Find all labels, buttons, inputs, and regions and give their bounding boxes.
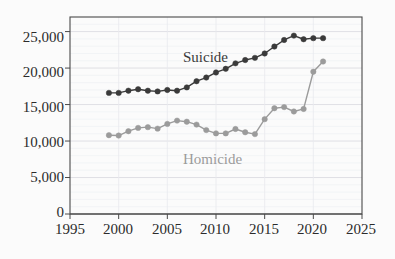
- y-tick-label-15000: 15,000: [23, 100, 64, 115]
- data-point: [126, 88, 131, 93]
- data-point: [184, 85, 189, 90]
- x-tick-label-2010: 2010: [193, 222, 237, 237]
- data-point: [155, 89, 160, 94]
- data-point: [145, 88, 150, 93]
- data-point: [262, 116, 267, 121]
- data-point: [262, 51, 267, 56]
- data-point: [320, 35, 325, 40]
- data-point: [106, 90, 111, 95]
- data-point: [135, 125, 140, 130]
- data-point: [243, 130, 248, 135]
- series-label-suicide: Suicide: [183, 50, 228, 65]
- data-point: [223, 131, 228, 136]
- x-tick-label-2015: 2015: [242, 222, 286, 237]
- data-point: [126, 128, 131, 133]
- y-tick-label-20000: 20,000: [23, 65, 64, 80]
- data-point: [311, 35, 316, 40]
- x-tick-label-1995: 1995: [48, 222, 92, 237]
- chart-container: 25,000 20,000 15,000 10,000 5,000 0 1995…: [0, 0, 395, 259]
- data-point: [184, 119, 189, 124]
- data-point: [135, 87, 140, 92]
- data-point: [281, 37, 286, 42]
- data-point: [252, 55, 257, 60]
- data-point: [174, 118, 179, 123]
- y-tick-label-0: 0: [57, 205, 65, 220]
- data-point: [281, 104, 286, 109]
- x-tick-label-2000: 2000: [96, 222, 140, 237]
- data-point: [301, 106, 306, 111]
- y-tick-label-5000: 5,000: [30, 170, 64, 185]
- x-tick-label-2005: 2005: [145, 222, 189, 237]
- data-point: [145, 124, 150, 129]
- x-tick-label-2020: 2020: [290, 222, 334, 237]
- data-point: [311, 69, 316, 74]
- data-point: [301, 37, 306, 42]
- data-point: [233, 126, 238, 131]
- y-tick-label-25000: 25,000: [23, 30, 64, 45]
- data-point: [213, 131, 218, 136]
- data-point: [194, 79, 199, 84]
- data-point: [223, 66, 228, 71]
- data-point: [291, 109, 296, 114]
- data-point: [272, 106, 277, 111]
- data-point: [165, 87, 170, 92]
- data-point: [106, 133, 111, 138]
- y-tick-label-10000: 10,000: [23, 135, 64, 150]
- data-point: [243, 57, 248, 62]
- x-tick-label-2025: 2025: [339, 222, 383, 237]
- data-point: [204, 127, 209, 132]
- data-point: [272, 44, 277, 49]
- data-point: [213, 70, 218, 75]
- data-point: [291, 33, 296, 38]
- data-point: [116, 133, 121, 138]
- data-point: [174, 88, 179, 93]
- data-point: [155, 126, 160, 131]
- gridlines: [70, 17, 362, 214]
- data-point: [233, 61, 238, 66]
- data-point: [320, 59, 325, 64]
- data-point: [204, 75, 209, 80]
- data-point: [252, 131, 257, 136]
- data-point: [116, 90, 121, 95]
- data-point: [194, 122, 199, 127]
- series-label-homicide: Homicide: [183, 152, 242, 167]
- data-point: [165, 121, 170, 126]
